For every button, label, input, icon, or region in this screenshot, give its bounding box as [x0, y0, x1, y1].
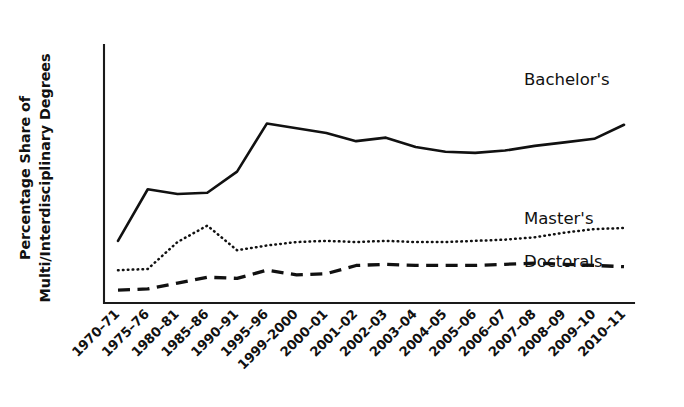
- line-chart-svg: Percentage Share of Multi/Interdisciplin…: [0, 0, 684, 407]
- series-label-doctorals: Doctorals: [524, 252, 603, 271]
- series-label-bachelors: Bachelor's: [524, 70, 610, 89]
- series-label-masters: Master's: [524, 209, 593, 228]
- x-axis-tick-labels: 1970–711975–761980–811985–861990–911995–…: [69, 306, 628, 372]
- chart-figure: Percentage Share of Multi/Interdisciplin…: [0, 0, 684, 407]
- y-axis-label-line1: Percentage Share of: [17, 95, 33, 260]
- y-axis-label-line2: Multi/Interdisciplinary Degrees: [37, 54, 53, 303]
- y-axis-label: Percentage Share of Multi/Interdisciplin…: [17, 54, 53, 303]
